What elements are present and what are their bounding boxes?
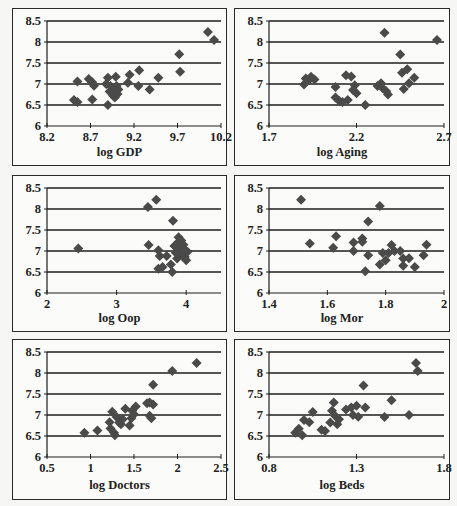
scatter-plot-log-oop: 66.577.588.5234 [13,176,228,333]
data-point-diamond-icon [296,195,306,205]
data-point-diamond-icon [387,395,397,405]
y-tick-label: 8.5 [247,181,263,195]
y-tick-label: 7.5 [247,223,263,237]
x-axis-label: log Beds [235,478,449,493]
y-tick-label: 7 [257,77,263,91]
data-point-diamond-icon [175,67,185,77]
y-tick-label: 7.5 [25,223,41,237]
y-tick-label: 6.5 [247,98,263,112]
data-point-diamond-icon [174,49,184,59]
y-tick-label: 8 [35,202,41,216]
x-tick-label: 3 [113,297,119,311]
data-point-diamond-icon [413,366,423,376]
y-tick-label: 6 [35,286,41,300]
data-point-diamond-icon [143,202,153,212]
y-tick-label: 8 [257,366,263,380]
y-tick-label: 8 [257,35,263,49]
x-tick-label: 2 [174,461,180,475]
data-point-diamond-icon [349,246,359,256]
scatter-plot-log-mor: 66.577.588.51.41.61.82 [235,176,451,333]
x-axis-label: log Aging [235,145,449,160]
y-tick-label: 6.5 [25,98,41,112]
scatter-plot-log-beds: 66.577.588.50.81.31.8 [235,340,451,501]
y-tick-label: 8.5 [25,14,41,28]
data-point-diamond-icon [432,35,442,45]
data-point-diamond-icon [380,412,390,422]
x-tick-label: 1.7 [261,130,277,144]
chart-panel-log-mor: 66.577.588.51.41.61.82 log Mor [234,175,450,332]
data-point-diamond-icon [153,73,163,83]
data-point-diamond-icon [87,95,97,105]
data-point-diamond-icon [360,266,370,276]
data-point-diamond-icon [404,253,414,263]
data-point-diamond-icon [380,28,390,38]
y-tick-label: 6.5 [25,429,41,443]
y-tick-label: 7.5 [247,56,263,70]
data-point-diamond-icon [398,261,408,271]
y-tick-label: 8.5 [247,345,263,359]
scatter-plot-log-doctors: 66.577.588.50.511.522.5 [13,340,228,501]
data-point-diamond-icon [167,267,177,277]
y-tick-label: 7 [35,244,41,258]
data-point-diamond-icon [145,84,155,94]
y-tick-label: 8 [35,366,41,380]
data-point-diamond-icon [411,358,421,368]
y-tick-label: 7.5 [247,387,263,401]
y-tick-label: 8.5 [25,181,41,195]
data-point-diamond-icon [73,243,83,253]
x-tick-label: 10.2 [210,130,232,144]
y-tick-label: 8.5 [25,345,41,359]
data-point-diamond-icon [144,240,154,250]
data-point-diamond-icon [72,76,82,86]
x-tick-label: 0.8 [261,461,277,475]
data-point-diamond-icon [151,195,161,205]
data-point-diamond-icon [168,216,178,226]
data-point-diamond-icon [148,380,158,390]
x-tick-label: 2.2 [349,130,365,144]
data-point-diamond-icon [360,402,370,412]
y-tick-label: 6.5 [25,265,41,279]
y-tick-label: 7.5 [25,56,41,70]
data-point-diamond-icon [331,231,341,241]
data-point-diamond-icon [395,50,405,60]
x-tick-label: 1.8 [436,461,452,475]
y-tick-label: 7 [35,77,41,91]
x-tick-label: 2 [441,297,447,311]
chart-panel-log-aging: 66.577.588.51.72.22.7 log Aging [234,8,450,166]
chart-panel-log-oop: 66.577.588.5234 log Oop [12,175,227,332]
data-point-diamond-icon [125,421,135,431]
data-point-diamond-icon [359,381,369,391]
x-tick-label: 2.5 [213,461,229,475]
data-point-diamond-icon [404,410,414,420]
data-point-diamond-icon [203,27,213,37]
y-tick-label: 8 [35,35,41,49]
chart-panel-log-gdp: 66.577.588.58.28.79.29.710.2 log GDP [12,8,227,166]
x-axis-label: log GDP [13,145,226,160]
data-point-diamond-icon [419,250,429,260]
x-tick-label: 1.4 [261,297,277,311]
y-tick-label: 6.5 [247,429,263,443]
data-point-diamond-icon [125,70,135,80]
x-axis-label: log Doctors [13,478,226,493]
y-tick-label: 7.5 [25,387,41,401]
chart-panel-log-doctors: 66.577.588.50.511.522.5 log Doctors [12,339,227,500]
data-point-diamond-icon [133,81,143,91]
data-point-diamond-icon [166,259,176,269]
data-point-diamond-icon [422,240,432,250]
x-tick-label: 4 [183,297,190,311]
y-tick-label: 7 [257,244,263,258]
data-point-diamond-icon [305,238,315,248]
scatter-plot-log-aging: 66.577.588.51.72.22.7 [235,9,451,167]
y-tick-label: 6.5 [247,265,263,279]
x-tick-label: 2 [44,297,50,311]
x-tick-label: 1 [87,461,93,475]
data-point-diamond-icon [167,366,177,376]
data-point-diamond-icon [192,358,202,368]
x-tick-label: 8.2 [39,130,55,144]
x-tick-label: 1.6 [320,297,336,311]
x-tick-label: 9.2 [126,130,142,144]
data-point-diamond-icon [103,100,113,110]
x-axis-label: log Mor [235,311,449,326]
data-point-diamond-icon [92,426,102,436]
x-tick-label: 9.7 [170,130,186,144]
